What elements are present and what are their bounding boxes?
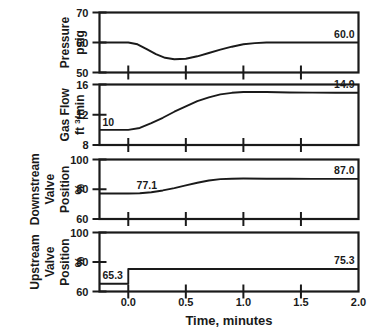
y-axis-label-pressure-line-1: psig [73, 30, 87, 55]
y-axis-label-downstream-valve-line-3: % [73, 184, 87, 195]
y-axis-label-downstream-valve-line-1: Valve [43, 174, 57, 205]
y-axis-label-gas-flow-line-1: ft 3/min [73, 95, 88, 135]
y-axis-label-downstream-valve-line-2: Position [58, 166, 72, 213]
y-tick-label-downstream-valve-100: 100 [70, 154, 88, 166]
y-tick-label-gas-flow-8: 8 [82, 139, 88, 151]
data-line-gas-flow [100, 92, 359, 130]
panel-pressure: 50607060.0Pressurepsig [58, 7, 359, 80]
panel-upstream-valve: 608010065.375.3UpstreamValvePosition% [28, 227, 359, 299]
panel-downstream-valve: 608010077.187.0DownstreamValvePosition% [28, 153, 359, 226]
x-tick-label-1.5: 1.5 [293, 296, 308, 308]
x-tick-label-2.0: 2.0 [351, 296, 366, 308]
y-tick-label-gas-flow-16: 16 [76, 79, 88, 91]
y-axis-label-gas-flow-line-0: Gas Flow [58, 87, 72, 141]
y-tick-label-upstream-valve-60: 60 [76, 286, 88, 298]
y-tick-label-downstream-valve-60: 60 [76, 213, 88, 225]
x-tick-label-0.5: 0.5 [178, 296, 193, 308]
end-value-label-downstream-valve: 87.0 [334, 164, 355, 176]
start-value-label-downstream-valve: 77.1 [137, 179, 158, 191]
y-tick-label-pressure-70: 70 [76, 7, 88, 19]
y-axis-label-upstream-valve-line-2: Position [58, 238, 72, 285]
end-value-label-pressure: 60.0 [334, 28, 355, 40]
x-tick-label-1.0: 1.0 [236, 296, 251, 308]
y-axis-label-upstream-valve-line-1: Valve [43, 246, 57, 277]
chart-figure: 50607060.0Pressurepsig812161014.9Gas Flo… [0, 0, 377, 333]
y-tick-label-pressure-50: 50 [76, 67, 88, 79]
panel-frame-upstream-valve [100, 233, 359, 292]
x-tick-label-0.0: 0.0 [121, 296, 136, 308]
data-line-upstream-valve [100, 269, 359, 284]
y-axis-label-upstream-valve-line-3: % [73, 256, 87, 267]
multi-panel-time-series-chart: 50607060.0Pressurepsig812161014.9Gas Flo… [0, 0, 377, 333]
y-axis-label-downstream-valve-line-0: Downstream [28, 153, 42, 225]
data-line-pressure [100, 43, 359, 60]
y-tick-label-upstream-valve-100: 100 [70, 227, 88, 239]
end-value-label-gas-flow: 14.9 [334, 78, 355, 90]
x-axis: 0.00.51.01.52.0Time, minutes [121, 296, 367, 328]
x-axis-label: Time, minutes [185, 313, 272, 328]
end-value-label-upstream-valve: 75.3 [334, 254, 355, 266]
panel-gas-flow: 812161014.9Gas Flowft 3/min [58, 78, 359, 152]
y-axis-label-pressure-line-0: Pressure [58, 16, 72, 68]
start-value-label-upstream-valve: 65.3 [103, 269, 124, 281]
y-axis-label-upstream-valve-line-0: Upstream [28, 234, 42, 289]
start-value-label-gas-flow: 10 [103, 116, 115, 128]
